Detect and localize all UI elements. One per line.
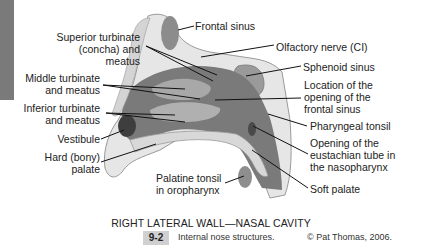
figure-title: RIGHT LATERAL WALL—NASAL CAVITY: [0, 217, 422, 229]
frontal-sinus-shape: [161, 16, 179, 50]
copyright-notice: © Pat Thomas, 2006.: [307, 232, 392, 242]
label-hard-palate: Hard (bony) palate: [20, 151, 100, 175]
figure-number-badge: 9-2: [143, 231, 169, 245]
figure-description: Internal nose structures.: [178, 232, 275, 242]
label-inferior-turbinate: Inferior turbinate and meatus: [6, 102, 100, 126]
label-olfactory-nerve: Olfactory nerve (CI): [276, 41, 368, 53]
label-eustachian-tube-opening: Opening of the eustachian tube in the na…: [310, 137, 395, 173]
label-palatine-tonsil: Palatine tonsil in oropharynx: [156, 172, 221, 196]
label-location-opening-frontal-sinus: Location of the opening of the frontal s…: [304, 79, 373, 115]
label-superior-turbinate: Superior turbinate (concha) and meatus: [26, 31, 140, 67]
label-vestibule: Vestibule: [20, 133, 100, 145]
label-pharyngeal-tonsil: Pharyngeal tonsil: [310, 120, 391, 132]
label-frontal-sinus: Frontal sinus: [195, 20, 255, 32]
eustachian-opening-shape: [248, 122, 256, 136]
label-soft-palate: Soft palate: [310, 183, 360, 195]
label-middle-turbinate: Middle turbinate and meatus: [10, 72, 100, 96]
label-sphenoid-sinus: Sphenoid sinus: [303, 61, 375, 73]
vestibule-shape: [118, 115, 136, 137]
